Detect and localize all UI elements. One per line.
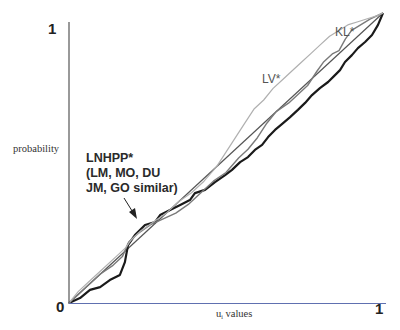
lnhpp-label-line3: JM, GO similar) (86, 181, 178, 195)
origin-tick-0: 0 (56, 298, 64, 315)
y-tick-1: 1 (48, 20, 56, 37)
x-axis-title: ui values (216, 308, 252, 320)
lnhpp-label-line2: (LM, MO, DU (86, 166, 160, 180)
kl-label: KL* (335, 25, 355, 39)
y-axis-title: probability (13, 143, 60, 154)
x-tick-1: 1 (375, 300, 383, 317)
lnhpp-label-line1: LNHPP* (86, 151, 133, 165)
lv-label: LV* (262, 72, 281, 86)
probability-plot: 1 0 1 probability ui values LNHPP* (LM, … (0, 0, 400, 330)
arrow-icon (124, 198, 137, 219)
x-axis-title-rest: values (223, 308, 252, 319)
